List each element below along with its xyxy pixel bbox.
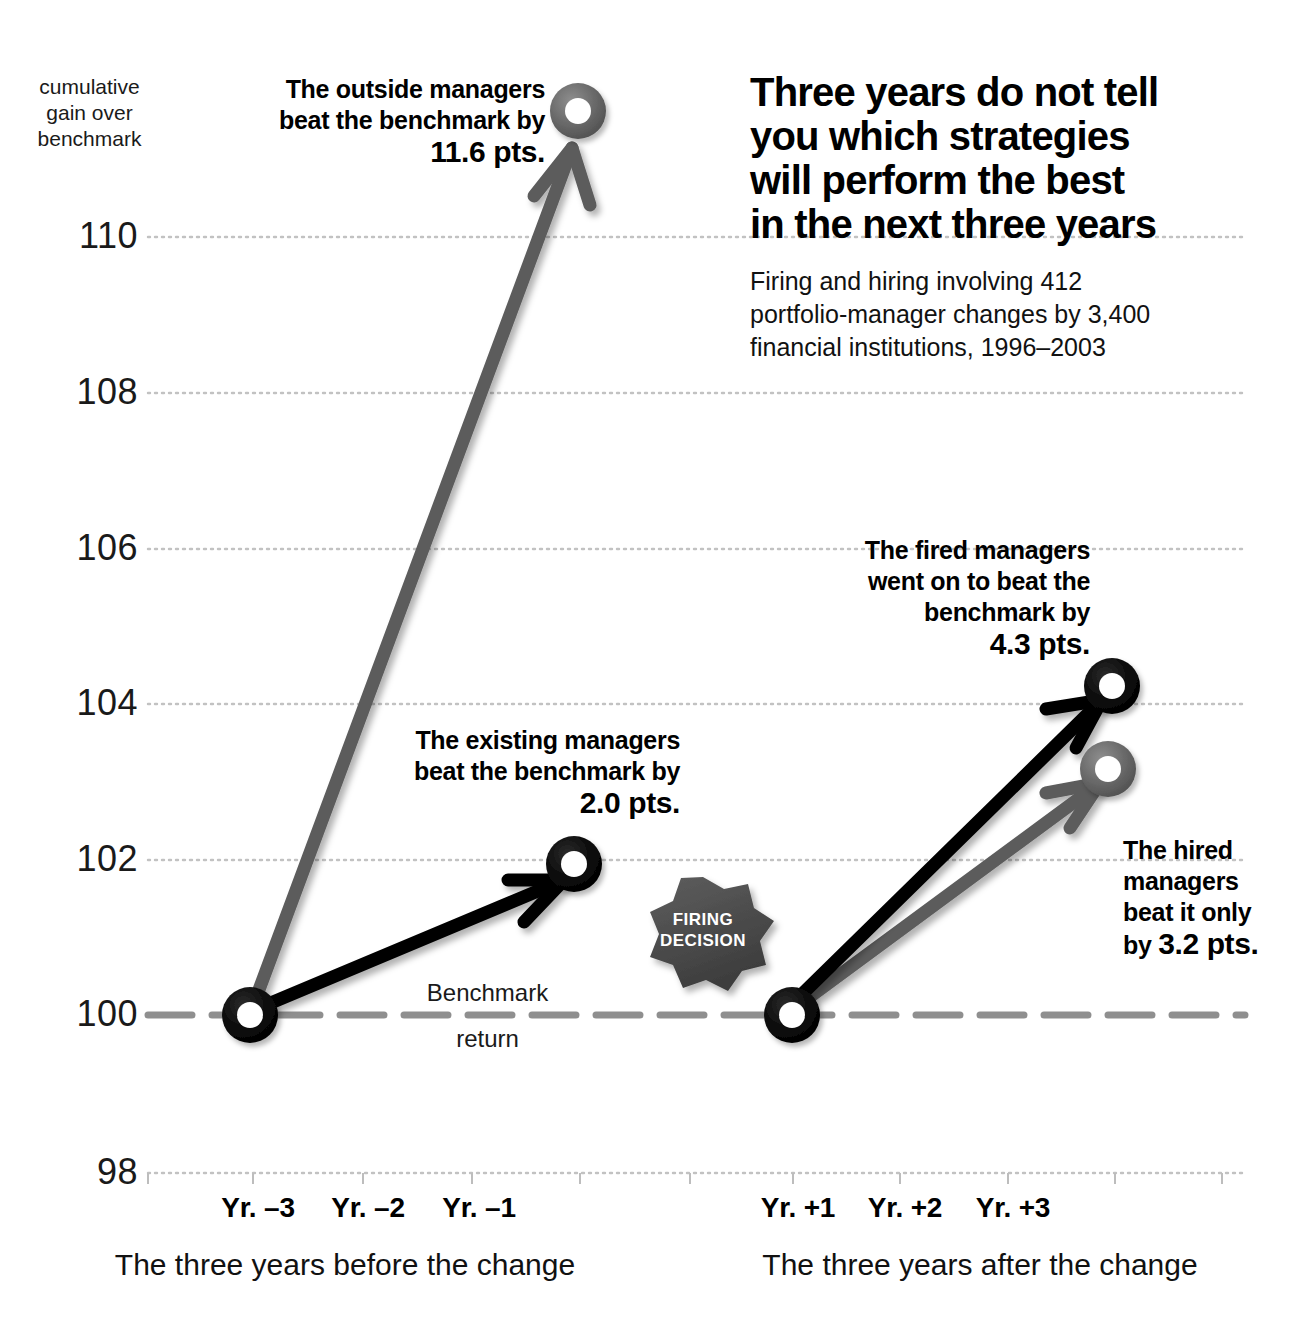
x-tick-yr-plus-3: Yr. +3 xyxy=(953,1192,1073,1224)
callout-fired-line-3: benchmark by xyxy=(790,597,1090,628)
fired-managers-arrow xyxy=(790,700,1102,1006)
page-subtitle: Firing and hiring involving 412 portfoli… xyxy=(750,265,1240,364)
callout-fired-managers: The fired managers went on to beat the b… xyxy=(790,535,1090,659)
callout-outside-managers: The outside managers beat the benchmark … xyxy=(185,74,545,167)
outside-managers-arrow xyxy=(250,148,590,1014)
callout-existing-line-1: The existing managers xyxy=(320,725,680,756)
x-tick-yr-plus-2: Yr. +2 xyxy=(845,1192,965,1224)
x-tick-yr-plus-1: Yr. +1 xyxy=(738,1192,858,1224)
y-tick-110: 110 xyxy=(20,215,138,257)
callout-outside-line-2: beat the benchmark by xyxy=(185,105,545,136)
hired-managers-endpoint xyxy=(1080,741,1136,797)
badge-line-1: FIRING xyxy=(638,909,768,930)
headline-line-4: in the next three years xyxy=(750,202,1220,246)
callout-fired-value: 4.3 pts. xyxy=(790,628,1090,659)
existing-managers-endpoint xyxy=(546,836,602,892)
hired-managers-arrow xyxy=(792,783,1100,1010)
firing-decision-badge: FIRING DECISION xyxy=(638,877,768,995)
y-axis-caption-line3: benchmark xyxy=(22,126,157,152)
x-tick-yr-minus-2: Yr. –2 xyxy=(308,1192,428,1224)
subhead-line-2: portfolio-manager changes by 3,400 xyxy=(750,298,1240,331)
page-title: Three years do not tell you which strate… xyxy=(750,70,1220,246)
callout-outside-line-1: The outside managers xyxy=(185,74,545,105)
callout-hired-value: 3.2 pts. xyxy=(1158,927,1258,960)
callout-existing-managers: The existing managers beat the benchmark… xyxy=(320,725,680,818)
x-group-after-change: The three years after the change xyxy=(690,1248,1270,1282)
outside-managers-endpoint xyxy=(550,83,606,139)
callout-existing-line-2: beat the benchmark by xyxy=(320,756,680,787)
callout-hired-line-3: beat it only xyxy=(1123,897,1297,928)
callout-hired-line-2: managers xyxy=(1123,866,1297,897)
callout-existing-value: 2.0 pts. xyxy=(320,787,680,818)
origin-marker-left xyxy=(222,987,278,1043)
headline-line-1: Three years do not tell xyxy=(750,70,1220,114)
callout-fired-line-1: The fired managers xyxy=(790,535,1090,566)
x-tick-yr-minus-1: Yr. –1 xyxy=(419,1192,539,1224)
callout-hired-managers: The hired managers beat it only by 3.2 p… xyxy=(1123,835,1297,961)
y-axis-caption-line1: cumulative xyxy=(22,74,157,100)
y-axis-caption: cumulative gain over benchmark xyxy=(22,74,157,152)
axis-ticks xyxy=(148,1173,1222,1184)
subhead-line-1: Firing and hiring involving 412 xyxy=(750,265,1240,298)
badge-line-2: DECISION xyxy=(638,930,768,951)
callout-hired-line-1: The hired xyxy=(1123,835,1297,866)
headline-line-3: will perform the best xyxy=(750,158,1220,202)
firing-decision-badge-text: FIRING DECISION xyxy=(638,909,768,951)
x-group-before-change: The three years before the change xyxy=(20,1248,670,1282)
infographic-chart: cumulative gain over benchmark 110 108 1… xyxy=(0,0,1297,1341)
subhead-line-3: financial institutions, 1996–2003 xyxy=(750,331,1240,364)
y-tick-100: 100 xyxy=(20,993,138,1035)
benchmark-label-top: Benchmark xyxy=(380,970,595,1016)
benchmark-return-label: Benchmark return xyxy=(380,970,595,1062)
origin-marker-right xyxy=(764,987,820,1043)
y-tick-106: 106 xyxy=(20,527,138,569)
y-tick-102: 102 xyxy=(20,838,138,880)
y-tick-104: 104 xyxy=(20,682,138,724)
benchmark-label-bottom: return xyxy=(380,1016,595,1062)
gridlines xyxy=(148,237,1245,1173)
callout-hired-line-4-prefix: by xyxy=(1123,931,1158,959)
fired-managers-endpoint xyxy=(1084,658,1140,714)
callout-outside-value: 11.6 pts. xyxy=(185,136,545,167)
x-tick-yr-minus-3: Yr. –3 xyxy=(198,1192,318,1224)
y-tick-98: 98 xyxy=(20,1151,138,1193)
y-axis-caption-line2: gain over xyxy=(22,100,157,126)
y-tick-108: 108 xyxy=(20,371,138,413)
callout-fired-line-2: went on to beat the xyxy=(790,566,1090,597)
headline-line-2: you which strategies xyxy=(750,114,1220,158)
